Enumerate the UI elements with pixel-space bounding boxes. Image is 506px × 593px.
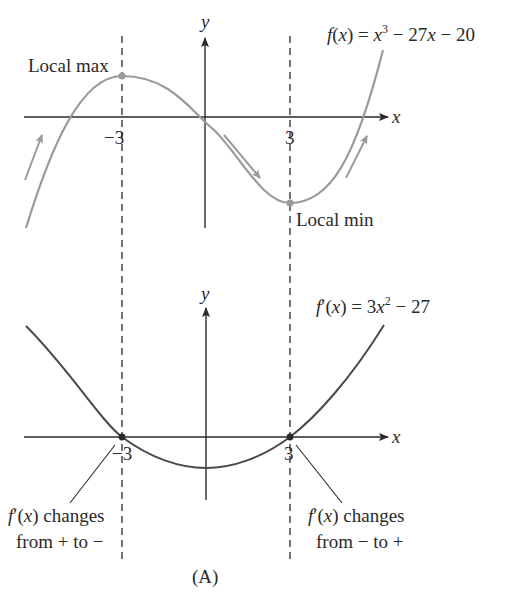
note-left-line2: from + to − bbox=[16, 531, 103, 552]
increasing-arrow-right bbox=[346, 136, 367, 178]
bottom-tick-3: 3 bbox=[284, 443, 294, 464]
top-x-axis-label: x bbox=[391, 106, 401, 127]
note-right-line2: from − to + bbox=[316, 531, 403, 552]
local-min-point bbox=[286, 199, 293, 206]
bottom-tick-neg3: −3 bbox=[112, 443, 132, 464]
top-y-axis-label: y bbox=[199, 11, 210, 32]
leader-line-left bbox=[70, 445, 115, 503]
leader-line-right bbox=[296, 445, 342, 503]
top-tick-neg3: −3 bbox=[104, 127, 124, 148]
fprime-function-label: f′(x) = 3x2 − 27 bbox=[316, 294, 430, 318]
increasing-arrow-left bbox=[25, 135, 42, 180]
top-tick-3: 3 bbox=[285, 127, 295, 148]
fprime-curve bbox=[26, 325, 384, 468]
bottom-x-axis-label: x bbox=[391, 426, 401, 447]
bottom-graph: y x −3 3 f′(x) = 3x2 − 27 f′(x) changes … bbox=[8, 283, 430, 552]
figure-caption: (A) bbox=[192, 566, 218, 588]
bottom-y-axis-label: y bbox=[199, 283, 210, 304]
critical-points-figure: y x −3 3 Local max Local min f(x) = x3 −… bbox=[0, 0, 506, 593]
zero-point-3 bbox=[287, 434, 294, 441]
f-function-label: f(x) = x3 − 27x − 20 bbox=[327, 22, 475, 46]
zero-point-neg3 bbox=[119, 434, 126, 441]
note-left-line1: f′(x) changes bbox=[8, 505, 104, 527]
top-graph: y x −3 3 Local max Local min f(x) = x3 −… bbox=[24, 11, 475, 560]
decreasing-arrow-middle bbox=[224, 135, 260, 178]
local-max-label: Local max bbox=[28, 55, 109, 76]
local-min-label: Local min bbox=[296, 209, 374, 230]
local-max-point bbox=[118, 72, 125, 79]
note-right-line1: f′(x) changes bbox=[308, 505, 404, 527]
